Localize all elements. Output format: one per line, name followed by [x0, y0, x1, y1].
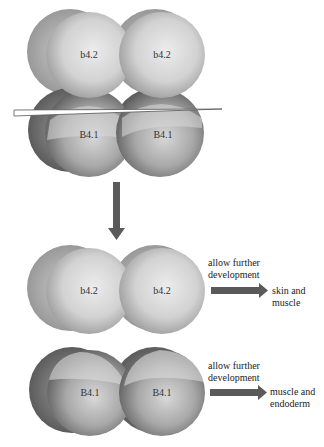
outcome-line-1: skin and — [272, 285, 306, 296]
cell-label: b4.2 — [80, 49, 98, 60]
cell-b41-right: B4.1 — [116, 89, 204, 177]
cell-label: b4.2 — [153, 49, 171, 60]
cell-b41-right: B4.1 — [119, 350, 205, 436]
embryo-diagram: B4.1 B4.1 b4.2 b4.2 b4.2 — [0, 0, 324, 447]
cell-b42-right: b4.2 — [119, 248, 205, 334]
outcome-line-2: endoderm — [270, 398, 310, 409]
outcome-line-1: muscle and — [270, 386, 315, 397]
animal-pair: b4.2 b4.2 — [27, 245, 205, 334]
annotation-line-1: allow further — [208, 360, 261, 371]
annotation-line-2: development — [208, 372, 260, 383]
annotation-line-2: development — [208, 269, 260, 280]
cell-label: B4.1 — [152, 387, 171, 398]
outcome-line-2: muscle — [272, 297, 301, 308]
cell-label: B4.1 — [79, 129, 98, 140]
right-arrow-icon — [211, 283, 268, 298]
cell-label: b4.2 — [80, 285, 98, 296]
top-embryo: B4.1 B4.1 b4.2 b4.2 — [14, 9, 222, 177]
cell-b42-right: b4.2 — [119, 12, 205, 98]
vegetal-pair: B4.1 B4.1 — [29, 347, 205, 436]
cell-label: B4.1 — [153, 129, 172, 140]
annotation-line-1: allow further — [208, 257, 261, 268]
cell-label: b4.2 — [153, 285, 171, 296]
cell-label: B4.1 — [80, 387, 99, 398]
down-arrow-icon — [108, 182, 125, 240]
right-arrow-icon — [210, 385, 267, 400]
